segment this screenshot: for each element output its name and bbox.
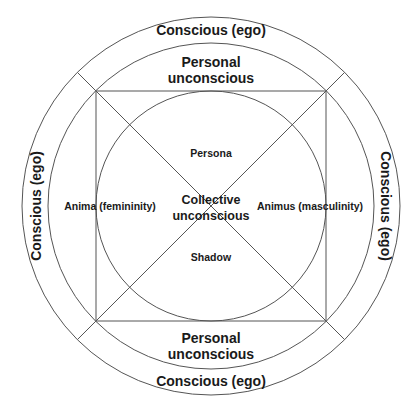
label-anima: Anima (femininity) — [64, 200, 156, 212]
label-personal-unconscious-bottom-1: Personal — [181, 330, 240, 346]
label-collective-2: unconscious — [172, 209, 249, 223]
label-persona: Persona — [190, 147, 232, 159]
label-shadow: Shadow — [191, 251, 232, 263]
label-conscious-right: Conscious (ego) — [378, 151, 394, 261]
label-conscious-left: Conscious (ego) — [28, 151, 44, 261]
psyche-diagram: Conscious (ego) Conscious (ego) Consciou… — [0, 0, 417, 410]
label-conscious-bottom: Conscious (ego) — [156, 373, 266, 389]
label-personal-unconscious-bottom-2: unconscious — [168, 346, 255, 362]
label-animus: Animus (masculinity) — [257, 200, 363, 212]
label-personal-unconscious-top-2: unconscious — [168, 70, 255, 86]
label-collective-1: Collective — [181, 193, 240, 207]
label-personal-unconscious-top-1: Personal — [181, 54, 240, 70]
label-conscious-top: Conscious (ego) — [156, 22, 266, 38]
